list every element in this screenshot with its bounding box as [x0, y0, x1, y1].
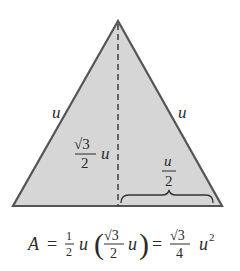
- formula-half-denominator: 2: [66, 245, 72, 259]
- formula-lhs: A: [27, 234, 40, 254]
- formula-exponent: 2: [209, 231, 215, 243]
- formula-left-paren: (: [94, 227, 104, 261]
- height-numerator: √3: [74, 136, 90, 152]
- formula-equals-1: =: [47, 234, 57, 254]
- half-base-numerator: u: [164, 153, 172, 169]
- formula-result-denominator: 4: [176, 246, 183, 261]
- formula-u1: u: [79, 234, 88, 254]
- formula-height-numerator: √3: [104, 228, 119, 243]
- left-side-label: u: [52, 103, 61, 122]
- formula-result-numerator: √3: [170, 228, 185, 243]
- height-variable: u: [101, 144, 110, 163]
- formula-u2: u: [128, 234, 137, 254]
- formula-equals-2: =: [152, 234, 162, 254]
- triangle-diagram: u u √3 2 u u 2 A = 1 2 u ( √3 2 u ) = √3…: [0, 0, 240, 271]
- height-denominator: 2: [81, 155, 89, 171]
- right-side-label: u: [178, 103, 187, 122]
- formula-height-denominator: 2: [110, 246, 117, 261]
- formula-u3: u: [199, 234, 208, 254]
- formula-right-paren: ): [139, 227, 149, 261]
- half-base-denominator: 2: [165, 173, 173, 189]
- area-formula: A = 1 2 u ( √3 2 u ) = √3 4 u 2: [27, 227, 215, 261]
- formula-half-numerator: 1: [66, 229, 72, 243]
